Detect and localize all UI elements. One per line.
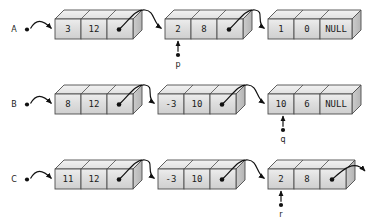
node-top-face <box>165 10 252 19</box>
cell-value-label: 0 <box>304 24 309 34</box>
node-top-face <box>268 10 361 19</box>
pointer-label-q: q <box>280 135 285 144</box>
cell-value-label: 10 <box>276 99 287 109</box>
cell-value-label: 1 <box>278 24 283 34</box>
pointer-label-p: p <box>175 60 180 69</box>
cell-value-label: 12 <box>89 174 100 184</box>
node-b3: 106NULL <box>268 85 361 114</box>
cell-value-label: -3 <box>166 174 177 184</box>
cell-value-label: 8 <box>201 24 206 34</box>
cell-value-label: 3 <box>65 24 70 34</box>
head-label-a: A <box>11 25 17 34</box>
node-top-face <box>268 85 361 94</box>
head-label-c: C <box>11 175 17 184</box>
cell-value-label: 10 <box>192 99 203 109</box>
cell-value-label: -3 <box>166 99 177 109</box>
head-dot-b <box>25 102 29 106</box>
cell-value-label: 8 <box>304 174 309 184</box>
node-top-face <box>55 160 142 169</box>
cell-value-label: 2 <box>278 174 283 184</box>
cell-value-label: 8 <box>65 99 70 109</box>
cell-value-label: 11 <box>63 174 74 184</box>
cell-value-label: 6 <box>304 99 309 109</box>
node-top-face <box>55 10 142 19</box>
pointer-dot-r <box>279 203 283 207</box>
head-label-b: B <box>11 100 17 109</box>
node-top-face <box>158 160 245 169</box>
node-c3: 28 <box>268 160 365 189</box>
cell-value-label: 2 <box>175 24 180 34</box>
head-dot-a <box>25 27 29 31</box>
cell-null-label: NULL <box>325 99 347 109</box>
node-top-face <box>268 160 355 169</box>
cell-value-label: 12 <box>89 24 100 34</box>
cell-value-label: 10 <box>192 174 203 184</box>
node-top-face <box>158 85 245 94</box>
cell-null-label: NULL <box>325 24 347 34</box>
linked-list-diagram: A3122810NULLpB812-310106NULLqC1112-31028… <box>0 0 377 224</box>
pointer-dot-q <box>281 128 285 132</box>
head-dot-c <box>25 177 29 181</box>
node-a3: 10NULL <box>268 10 361 39</box>
cell-value-label: 12 <box>89 99 100 109</box>
node-top-face <box>55 85 142 94</box>
pointer-dot-p <box>176 53 180 57</box>
